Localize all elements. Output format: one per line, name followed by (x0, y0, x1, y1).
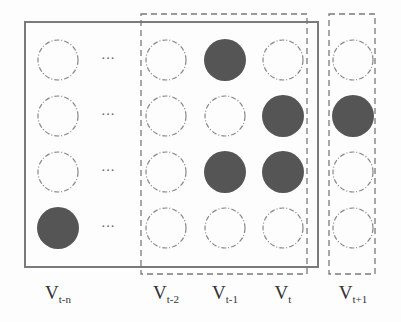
inactive-node (333, 208, 373, 248)
target-box (329, 14, 375, 274)
active-node (262, 151, 304, 193)
active-node (204, 151, 246, 193)
active-node (204, 39, 246, 81)
ellipsis: ··· (101, 163, 115, 178)
column-label-t-2: Vt-2 (153, 282, 179, 305)
inactive-node (146, 96, 186, 136)
column-label-t: Vt (275, 282, 292, 305)
active-node (332, 95, 374, 137)
inactive-node (38, 152, 78, 192)
inactive-node (146, 208, 186, 248)
inactive-node (146, 152, 186, 192)
inactive-node (205, 208, 245, 248)
diagram-canvas: ············ (0, 0, 401, 322)
ellipsis: ··· (101, 219, 115, 234)
column-label-t-1: Vt-1 (212, 282, 238, 305)
inactive-node (263, 208, 303, 248)
active-node (37, 207, 79, 249)
inactive-node (38, 40, 78, 80)
ellipsis: ··· (101, 107, 115, 122)
column-label-t+1: Vt+1 (339, 282, 368, 305)
ellipsis: ··· (101, 51, 115, 66)
inactive-node (333, 152, 373, 192)
inactive-node (146, 40, 186, 80)
inactive-node (38, 96, 78, 136)
inactive-node (205, 96, 245, 136)
inactive-node (263, 40, 303, 80)
column-label-t-n: Vt-n (45, 282, 71, 305)
active-node (262, 95, 304, 137)
inactive-node (333, 40, 373, 80)
